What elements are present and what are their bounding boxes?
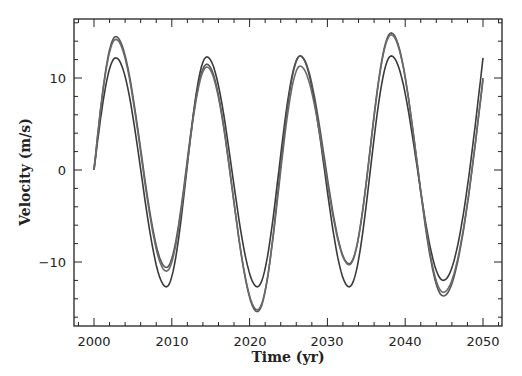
- x-tick-label: 2040: [388, 334, 421, 349]
- series-curve-2: [94, 33, 483, 312]
- series-curve-3: [94, 35, 483, 310]
- x-axis-title: Time (yr): [251, 349, 324, 365]
- x-tick-label: 2050: [466, 334, 499, 349]
- y-tick-label: −10: [39, 255, 66, 270]
- y-tick-label: 0: [58, 163, 66, 178]
- velocity-chart: 2000 2010 2020 2030 2040 2050 10 0 −10 T…: [0, 0, 522, 376]
- y-tick-label: 10: [49, 71, 66, 86]
- y-axis-title: Velocity (m/s): [17, 118, 33, 227]
- x-tick-labels: 2000 2010 2020 2030 2040 2050: [77, 334, 499, 349]
- x-tick-label: 2020: [233, 334, 266, 349]
- x-tick-label: 2030: [310, 334, 343, 349]
- x-tick-label: 2010: [155, 334, 188, 349]
- plot-area: [94, 33, 483, 312]
- axis-ticks: [74, 19, 502, 326]
- series-curve-1: [94, 56, 483, 287]
- axes-frame: [74, 19, 502, 326]
- x-tick-label: 2000: [77, 334, 110, 349]
- y-tick-labels: 10 0 −10: [39, 71, 66, 270]
